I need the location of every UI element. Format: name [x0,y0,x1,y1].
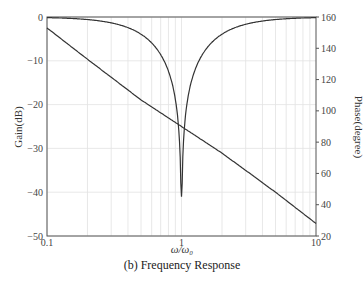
y-axis-right-ticks: 16014012010080604020 [316,12,336,242]
y-left-tick-label: −30 [27,143,43,154]
y-right-tick-label: 100 [321,105,336,116]
y-left-tick-label: −20 [27,99,43,110]
y-axis-right-label: Phase(degree) [352,96,364,159]
frequency-response-chart: 0−10−20−30−40−50 16014012010080604020 0.… [0,0,364,281]
figure-caption: (b) Frequency Response [0,258,364,273]
x-axis-label: ω/ω₀ [171,243,194,255]
y-right-tick-label: 140 [321,43,336,54]
x-tick-label: 10 [311,237,321,248]
y-axis-left-ticks: 0−10−20−30−40−50 [27,12,43,242]
y-right-tick-label: 60 [321,168,331,179]
y-right-tick-label: 160 [321,12,336,23]
y-left-tick-label: −40 [27,187,43,198]
y-axis-left-label: Gain(dB) [12,106,25,148]
y-left-tick-label: 0 [38,12,43,23]
y-right-tick-label: 20 [321,231,331,242]
y-right-tick-label: 40 [321,199,331,210]
y-right-tick-label: 120 [321,74,336,85]
y-left-tick-label: −10 [27,55,43,66]
y-right-tick-label: 80 [321,137,331,148]
x-tick-label: 0.1 [41,237,54,248]
